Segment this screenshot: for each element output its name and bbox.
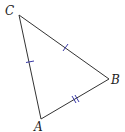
tick-side-cb [63, 44, 68, 51]
vertex-label-b: B [110, 73, 120, 87]
triangle-diagram: C B A [0, 0, 125, 132]
tick-side-ca [26, 61, 34, 63]
tick-side-ab-1 [72, 96, 76, 103]
vertex-label-c: C [5, 4, 14, 18]
vertex-label-a: A [33, 120, 43, 132]
triangle-abc [19, 15, 109, 119]
